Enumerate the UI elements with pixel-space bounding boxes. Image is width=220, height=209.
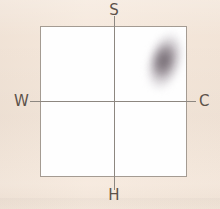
vertical-axis-line (114, 16, 115, 190)
scatter-density-figure: S H W C (0, 0, 220, 209)
axis-label-left: W (14, 94, 29, 109)
horizontal-axis-line (30, 101, 196, 102)
axis-label-right: C (199, 94, 210, 109)
axis-label-top: S (109, 3, 119, 18)
axis-label-bottom: H (108, 188, 119, 203)
